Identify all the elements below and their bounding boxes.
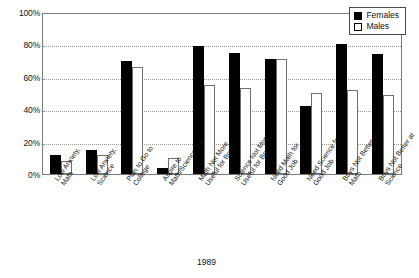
x-label-slot: Boys Not Better atMath [330,176,366,260]
y-tick-label-40: 40% [2,106,40,115]
legend-label-males: Males [366,22,389,31]
legend-swatch-filled-square-icon [354,12,362,20]
y-tick-label-100: 100% [2,9,40,18]
y-tick-label-0: 0% [2,171,40,180]
legend-item-females: Females [354,11,399,20]
x-label-slot: Plan to Go toCollege [114,176,150,260]
x-label-slot: Science Not MoreUseful for Boys [222,176,258,260]
y-tick-label-60: 60% [2,74,40,83]
legend: Females Males [349,7,406,35]
x-label-slot: Aspire toMath/Science Job [150,176,186,260]
x-label-slot: Need Math forGood Job [258,176,294,260]
x-label-slot: Boys Not Better atScience [366,176,402,260]
bar-females [121,61,132,174]
legend-swatch-empty-square-icon [354,23,362,31]
x-label-slot: Need Science forGood Job [294,176,330,260]
y-tick-label-20: 20% [2,139,40,148]
y-axis: 100% 80% 60% 40% 20% 0% [0,0,40,190]
x-axis-labels: Low Anxiety,MathLow Anxiety,SciencePlan … [42,176,402,260]
chart-caption: 1989 [0,258,413,267]
x-label-slot: Math Not MoreUseful for Boys [186,176,222,260]
x-label-slot: Low Anxiety,Math [42,176,78,260]
y-tick-label-80: 80% [2,41,40,50]
legend-item-males: Males [354,22,399,31]
legend-label-females: Females [366,11,399,20]
x-label-slot: Low Anxiety,Science [78,176,114,260]
bar-females [300,106,311,174]
